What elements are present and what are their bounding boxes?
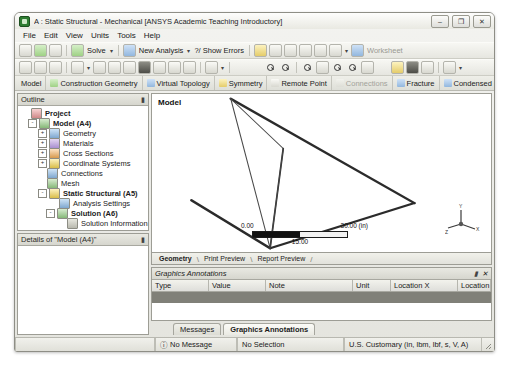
tree-item-solution-information[interactable]: Solution Information [20, 218, 147, 228]
tree-item-cross-sections[interactable]: + Cross Sections [20, 148, 147, 158]
pin-icon[interactable]: ▮ [141, 96, 145, 104]
expander-icon[interactable]: - [46, 209, 55, 218]
lock-icon[interactable] [421, 61, 434, 74]
tree-item-coordinate-systems[interactable]: + Coordinate Systems [20, 158, 147, 168]
select-face-icon[interactable] [49, 61, 62, 74]
box-select-icon[interactable] [93, 61, 106, 74]
select-vertex-icon[interactable] [19, 61, 32, 74]
new-analysis-button[interactable]: New Analysis [138, 46, 185, 55]
pan-icon[interactable] [249, 61, 262, 74]
tab-virtual-topology[interactable]: Virtual Topology [143, 76, 215, 90]
magnifier-icon[interactable] [331, 61, 344, 74]
annotations-table[interactable]: Type Value Note Unit Location X Location… [152, 280, 491, 303]
select-mode-dropdown-icon[interactable]: ▾ [86, 64, 91, 71]
solve-dropdown-icon[interactable]: ▾ [109, 47, 114, 54]
column-header-value[interactable]: Value [209, 280, 266, 291]
camera-icon[interactable] [329, 44, 342, 57]
query-icon[interactable] [346, 61, 359, 74]
copy-icon[interactable] [254, 44, 267, 57]
close-button[interactable]: ✕ [473, 15, 491, 28]
expander-icon[interactable]: - [38, 189, 47, 198]
tab-fracture[interactable]: Fracture [393, 76, 440, 90]
box-zoom-icon[interactable] [301, 61, 314, 74]
column-header-unit[interactable]: Unit [353, 280, 391, 291]
camera-dropdown-icon[interactable]: ▾ [344, 47, 349, 54]
table-row[interactable] [152, 292, 491, 303]
wireframe-icon[interactable] [153, 61, 166, 74]
axis-triad-icon[interactable]: Y X Z [445, 202, 481, 238]
worksheet-icon[interactable] [351, 44, 364, 57]
column-header-type[interactable]: Type [152, 280, 209, 291]
new-analysis-dropdown-icon[interactable]: ▾ [186, 47, 191, 54]
text-annotation-icon[interactable] [314, 44, 327, 57]
new-analysis-icon[interactable] [123, 44, 136, 57]
print-icon[interactable] [205, 61, 218, 74]
tree-item-static-structural[interactable]: - Static Structural (A5) [20, 188, 147, 198]
resize-grip-icon[interactable] [482, 338, 494, 351]
menu-item-units[interactable]: Units [91, 31, 109, 40]
expander-icon[interactable]: + [38, 159, 47, 168]
expander-icon[interactable]: + [38, 149, 47, 158]
expander-icon[interactable]: + [38, 139, 47, 148]
view-tab-geometry[interactable]: Geometry [154, 254, 197, 264]
solve-icon[interactable] [71, 44, 84, 57]
menu-item-file[interactable]: File [23, 31, 36, 40]
maximize-button[interactable]: ❐ [452, 15, 470, 28]
tree-item-materials[interactable]: + Materials [20, 138, 147, 148]
zoom-out-icon[interactable] [279, 61, 292, 74]
tree-item-geometry[interactable]: + Geometry [20, 128, 147, 138]
sections-icon[interactable] [361, 61, 374, 74]
single-select-icon[interactable] [123, 61, 136, 74]
paste-icon[interactable] [269, 44, 282, 57]
shaded-exterior-icon[interactable] [168, 61, 181, 74]
select-edge-icon[interactable] [34, 61, 47, 74]
tree-item-mesh[interactable]: Mesh [20, 178, 147, 188]
body-select-icon[interactable] [138, 61, 151, 74]
expander-icon[interactable]: - [28, 119, 37, 128]
refresh-icon[interactable] [34, 44, 47, 57]
column-header-location-y[interactable]: Location Y [458, 280, 491, 291]
new-window-icon[interactable] [19, 44, 32, 57]
view-tab-print-preview[interactable]: Print Preview [199, 254, 250, 264]
tab-condensed-geometry[interactable]: Condensed G [440, 76, 495, 90]
menu-item-tools[interactable]: Tools [117, 31, 136, 40]
tree-item-model[interactable]: - Model (A4) [20, 118, 147, 128]
column-header-location-x[interactable]: Location X [391, 280, 458, 291]
solve-button[interactable]: Solve [86, 46, 107, 55]
tree-item-project[interactable]: Project [20, 108, 147, 118]
show-errors-button[interactable]: ?/ Show Errors [193, 46, 245, 55]
tab-graphics-annotations[interactable]: Graphics Annotations [223, 323, 315, 335]
tree-item-solution[interactable]: - Solution (A6) [20, 208, 147, 218]
probe-icon[interactable] [376, 61, 389, 74]
ruler-icon[interactable] [406, 61, 419, 74]
expander-icon[interactable]: + [38, 129, 47, 138]
details-content[interactable] [18, 246, 148, 334]
tree-item-analysis-settings[interactable]: Analysis Settings [20, 198, 147, 208]
tab-remote-point[interactable]: Remote Point [267, 76, 331, 90]
menu-item-edit[interactable]: Edit [44, 31, 58, 40]
rotate-icon[interactable] [234, 61, 247, 74]
project-tree-icon[interactable] [49, 44, 62, 57]
tab-construction-geometry[interactable]: Construction Geometry [46, 76, 142, 90]
close-icon[interactable]: ✕ [482, 270, 488, 278]
viewport-dropdown-icon[interactable]: ▾ [458, 64, 463, 71]
attach-icon[interactable] [421, 44, 434, 57]
tab-model[interactable]: Model [17, 76, 46, 90]
worksheet-button[interactable]: Worksheet [366, 46, 404, 55]
menu-item-help[interactable]: Help [144, 31, 160, 40]
viewport-icon[interactable] [443, 61, 456, 74]
graphics-viewport[interactable]: Model [151, 93, 492, 253]
tab-symmetry[interactable]: Symmetry [215, 76, 268, 90]
edges-icon[interactable] [183, 61, 196, 74]
minimize-button[interactable]: – [431, 15, 449, 28]
print-dropdown-icon[interactable]: ▾ [220, 64, 225, 71]
tree-item-connections[interactable]: Connections [20, 168, 147, 178]
info-pointer-icon[interactable] [406, 44, 419, 57]
column-header-note[interactable]: Note [266, 280, 353, 291]
label-icon[interactable] [391, 61, 404, 74]
outline-tree[interactable]: Project - Model (A4) + Geometry + [18, 106, 148, 230]
pin-icon[interactable]: ▮ [141, 236, 145, 244]
tab-messages[interactable]: Messages [173, 323, 221, 335]
pin-icon[interactable]: ▮ [474, 270, 478, 278]
pointer-select-icon[interactable] [71, 61, 84, 74]
